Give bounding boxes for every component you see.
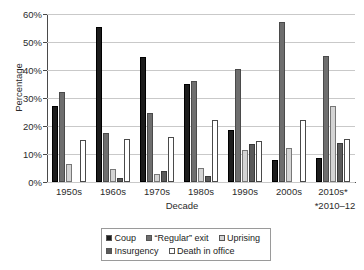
bar-insurgency-2010s [337,143,343,182]
y-tick-label-50: 50% [8,38,42,48]
bar-insurgency-1970s [161,171,167,182]
x-tick-label-1960s: 1960s [91,186,135,197]
bar-group-1960s [91,14,135,182]
bar-group-2010s [311,14,355,182]
x-tick-label-1980s: 1980s [179,186,223,197]
y-axis-title: Percentage [13,48,24,128]
uprising-swatch [219,235,225,241]
legend-label-coup: Coup [115,232,137,244]
x-tick-label-1950s: 1950s [47,186,91,197]
legend-row: Coup “Regular” exit Uprising [106,232,266,244]
legend-label-death-in-office: Death in office [177,245,234,257]
bar-regular-exit-1970s [147,113,153,182]
bar-coup-1960s [96,27,102,182]
x-tick-label-2000s: 2000s [267,186,311,197]
legend-item-regular-exit: “Regular” exit [146,232,209,244]
chart-legend: Coup “Regular” exit Uprising Insurgency … [101,228,271,261]
bar-insurgency-1980s [205,176,211,182]
bar-death-in-office-2000s [300,120,306,182]
bar-group-1990s [223,14,267,182]
footnote: *2010–12 [307,200,363,211]
bar-group-1970s [135,14,179,182]
bar-coup-2010s [316,158,322,182]
legend-item-coup: Coup [106,232,136,244]
x-tick-label-1990s: 1990s [223,186,267,197]
legend-row: Insurgency Death in office [106,245,266,257]
x-tick-label-1970s: 1970s [135,186,179,197]
bar-coup-2000s [272,160,278,182]
y-tick-label-60: 60% [8,10,42,20]
legend-label-uprising: Uprising [227,232,260,244]
bar-death-in-office-1980s [212,120,218,182]
bar-insurgency-1960s [117,178,123,182]
insurgency-swatch [106,248,112,254]
bar-death-in-office-1970s [168,137,174,182]
bar-uprising-1960s [110,169,116,182]
bar-group-1980s [179,14,223,182]
legend-item-uprising: Uprising [219,232,261,244]
legend-item-insurgency: Insurgency [106,245,159,257]
bar-death-in-office-1950s [80,140,86,182]
plot-area [47,14,355,182]
y-tick-label-0: 0% [8,178,42,188]
bar-coup-1980s [184,84,190,182]
bar-regular-exit-1960s [103,133,109,182]
bar-uprising-1980s [198,168,204,182]
regular-exit-swatch [146,235,152,241]
bar-uprising-1970s [154,174,160,182]
y-tick-label-10: 10% [8,150,42,160]
bar-regular-exit-1990s [235,69,241,182]
bar-regular-exit-2000s [279,22,285,182]
legend-label-regular-exit: “Regular” exit [155,232,209,244]
bar-death-in-office-1990s [256,141,262,182]
bar-group-2000s [267,14,311,182]
bar-regular-exit-1950s [59,92,65,182]
coup-swatch [106,235,112,241]
grid-line-0 [47,182,355,183]
bar-coup-1970s [140,57,146,182]
bar-group-1950s [47,14,91,182]
bar-death-in-office-2010s [344,139,350,182]
bar-regular-exit-1980s [191,81,197,182]
bar-coup-1950s [52,106,58,182]
bar-uprising-2000s [286,148,292,182]
bar-uprising-2010s [330,106,336,182]
x-tick-label-2010s: 2010s* [311,186,355,197]
legend-label-insurgency: Insurgency [115,245,159,257]
bar-chart: 60% 50% 40% 30% 20% 10% 0% Percentage 19… [0,0,364,270]
death-in-office-swatch [169,248,175,254]
bar-coup-1990s [228,130,234,182]
bar-regular-exit-2010s [323,56,329,182]
bar-uprising-1950s [66,164,72,182]
bar-uprising-1990s [242,150,248,182]
bar-insurgency-1990s [249,144,255,182]
bar-death-in-office-1960s [124,139,130,182]
legend-item-death-in-office: Death in office [169,245,235,257]
